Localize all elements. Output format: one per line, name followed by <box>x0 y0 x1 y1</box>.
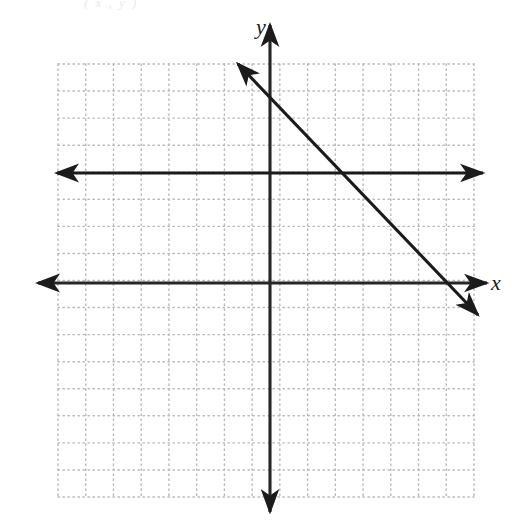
x-axis-label: x <box>491 272 501 294</box>
diagonal-line <box>238 64 478 315</box>
grid-dots <box>58 64 474 497</box>
coordinate-plane <box>0 0 524 522</box>
y-axis-label: y <box>256 16 266 38</box>
graph-figure: ( x , y ) y x <box>0 0 524 522</box>
